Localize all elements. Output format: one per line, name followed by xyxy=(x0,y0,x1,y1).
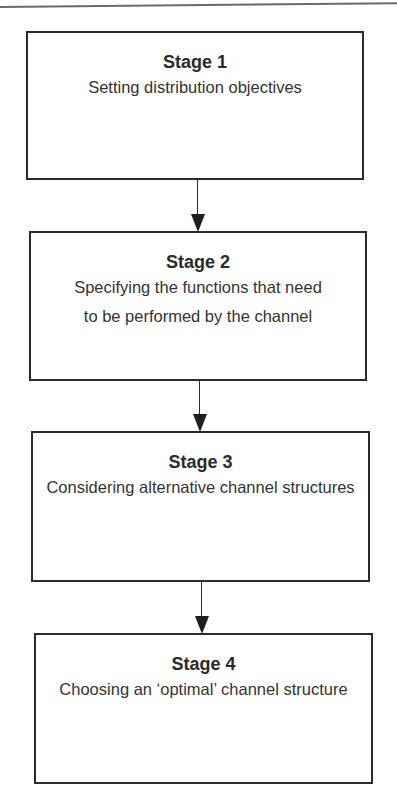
stage-1-description: Setting distribution objectives xyxy=(28,73,362,102)
arrow-down-icon xyxy=(191,180,205,232)
stage-3-box: Stage 3 Considering alternative channel … xyxy=(31,431,370,582)
stage-4-description: Choosing an ‘optimal’ channel structure xyxy=(36,675,371,704)
stage-2-box: Stage 2 Specifying the functions that ne… xyxy=(29,231,367,381)
stage-2-description: Specifying the functions that need to be… xyxy=(31,273,365,331)
stage-2-title: Stage 2 xyxy=(31,251,365,273)
stage-4-box: Stage 4 Choosing an ‘optimal’ channel st… xyxy=(34,633,373,784)
stage-3-description: Considering alternative channel structur… xyxy=(33,473,368,502)
top-rule-divider xyxy=(0,2,397,8)
arrow-down-icon xyxy=(195,582,209,634)
arrow-down-icon xyxy=(193,381,207,432)
stage-1-title: Stage 1 xyxy=(28,51,362,73)
stage-3-title: Stage 3 xyxy=(33,451,368,473)
stage-1-box: Stage 1 Setting distribution objectives xyxy=(26,31,364,180)
stage-4-title: Stage 4 xyxy=(36,653,371,675)
